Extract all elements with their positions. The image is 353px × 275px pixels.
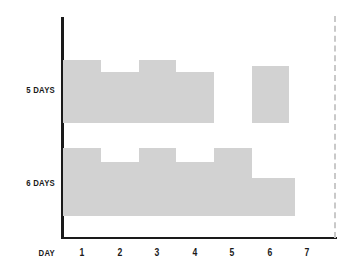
- bar-segment: [101, 162, 139, 216]
- y-axis-line: [61, 17, 64, 239]
- x-tick-label-5: 5: [223, 247, 240, 258]
- x-tick-label-6: 6: [261, 247, 278, 258]
- x-axis-title: DAY: [8, 248, 55, 258]
- bar-segment: [214, 148, 252, 216]
- series-5-days: [0, 0, 353, 275]
- future-boundary-dashed-line: [334, 16, 336, 238]
- bar-segment: [63, 60, 101, 123]
- category-label-6-days: 6 DAYS: [8, 178, 55, 188]
- x-tick-label-1: 1: [73, 247, 90, 258]
- bar-segment: [176, 72, 214, 123]
- chart-container: 5 DAYS 6 DAYS DAY 1 2 3 4 5 6 7: [0, 0, 353, 275]
- category-label-5-days: 5 DAYS: [8, 85, 55, 95]
- x-tick-label-7: 7: [298, 247, 315, 258]
- x-tick-label-4: 4: [186, 247, 203, 258]
- bar-segment: [252, 178, 296, 216]
- x-tick-label-3: 3: [148, 247, 165, 258]
- bar-segment: [101, 72, 139, 123]
- bar-segment: [139, 60, 177, 123]
- x-tick-label-2: 2: [111, 247, 128, 258]
- bar-segment: [252, 66, 290, 123]
- x-axis-line: [61, 237, 337, 240]
- bar-segment: [63, 148, 101, 216]
- bar-segment: [176, 162, 214, 216]
- series-6-days: [0, 0, 353, 275]
- bar-segment: [139, 148, 177, 216]
